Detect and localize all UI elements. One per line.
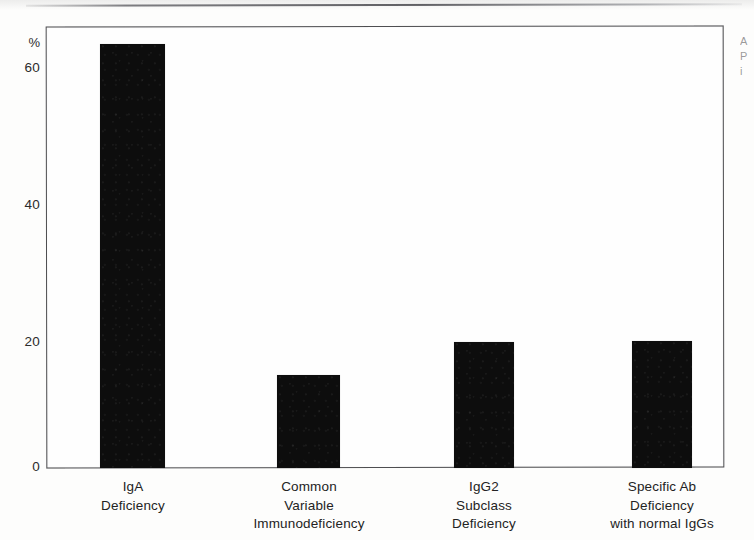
x-label-line: Immunodeficiency — [236, 515, 382, 534]
x-axis-label-specific-ab: Specific Ab Deficiency with normal IgGs — [584, 478, 740, 534]
x-label-line: IgA — [62, 478, 204, 497]
chart-page: % 60 40 20 0 IgA Deficiency Common Varia… — [0, 0, 754, 540]
x-label-line: IgG2 — [412, 478, 556, 497]
x-axis-label-iga: IgA Deficiency — [62, 478, 204, 515]
x-label-line: Deficiency — [412, 515, 556, 534]
x-label-line: Specific Ab — [584, 478, 740, 497]
caption-fragment-line: A — [740, 34, 754, 49]
bar-igg2-subclass-deficiency — [454, 342, 514, 468]
x-label-line: Variable — [236, 497, 382, 516]
x-axis-label-igg2: IgG2 Subclass Deficiency — [412, 478, 556, 534]
bar-iga-deficiency — [100, 44, 165, 468]
bar-specific-ab-deficiency — [632, 341, 692, 468]
x-axis-label-common-variable: Common Variable Immunodeficiency — [236, 478, 382, 534]
x-label-line: Deficiency — [62, 497, 204, 516]
cropped-caption-fragment: A P i — [740, 34, 754, 79]
caption-fragment-line: P — [740, 49, 754, 64]
bar-common-variable-immunodeficiency — [277, 375, 340, 468]
x-label-line: Subclass — [412, 497, 556, 516]
x-label-line: with normal IgGs — [584, 515, 740, 534]
bars-layer — [0, 0, 754, 540]
caption-fragment-line: i — [740, 64, 754, 79]
x-label-line: Deficiency — [584, 497, 740, 516]
x-label-line: Common — [236, 478, 382, 497]
